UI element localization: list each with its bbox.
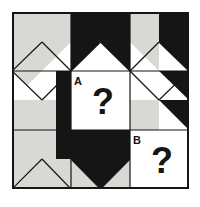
r0c1-black-cap <box>71 12 130 36</box>
r0c2-gray-top <box>130 12 159 36</box>
cell-label-a: A <box>74 76 82 87</box>
question-mark-b: ? <box>151 143 173 179</box>
quilt-figure-canvas: A B ? ? <box>0 0 200 207</box>
r1c2-gray-lower-left <box>130 100 159 130</box>
cell-label-b: B <box>133 135 141 146</box>
black-strip-left-A-lower <box>56 100 71 130</box>
question-mark-a: ? <box>92 84 114 120</box>
black-strip-left-A-upper <box>56 71 71 100</box>
